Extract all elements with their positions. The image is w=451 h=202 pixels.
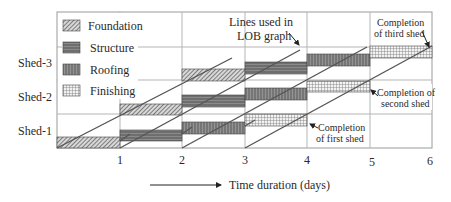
x-tick-2: 2: [179, 153, 185, 167]
legend-label-structure: Structure: [90, 41, 134, 55]
bar-shed2-roofing: [245, 88, 307, 100]
legend-swatch-roofing: [63, 64, 80, 75]
row-labels: Shed-3 Shed-2 Shed-1: [18, 56, 52, 138]
x-tick-6: 6: [427, 154, 433, 168]
row-label-shed1: Shed-1: [18, 124, 52, 138]
annotation-third-shed-2: of third shed: [374, 28, 425, 39]
annotation-lob-lines-1: Lines used in: [229, 15, 293, 29]
annotation-second-shed-1: Completion of: [377, 87, 436, 98]
row-label-shed3: Shed-3: [18, 56, 52, 70]
legend-swatch-foundation: [63, 20, 80, 31]
x-tick-3: 3: [242, 153, 248, 167]
x-axis-label: Time duration (days): [229, 178, 330, 192]
annotation-lob-lines-2: LOB graph: [237, 29, 291, 43]
bar-shed2-foundation: [120, 104, 182, 115]
x-tick-4: 4: [304, 153, 310, 167]
x-tick-5: 5: [369, 155, 375, 169]
annotation-second-shed-2: second shed: [381, 98, 430, 109]
legend-swatch-structure: [63, 42, 80, 53]
x-ticks: 1 2 3 4 5 6: [117, 153, 433, 169]
row-label-shed2: Shed-2: [18, 90, 52, 104]
legend-label-finishing: Finishing: [90, 84, 135, 98]
bar-shed2-finishing: [307, 81, 370, 92]
bar-shed3-finishing: [370, 46, 432, 58]
lob-diagram: Foundation Structure Roofing Finishing: [0, 0, 451, 202]
annotation-first-shed-1: Completion: [318, 122, 365, 133]
legend-swatch-finishing: [63, 85, 80, 96]
x-tick-1: 1: [117, 153, 123, 167]
legend-label-roofing: Roofing: [90, 63, 129, 77]
annotation-third-shed-1: Completion: [377, 17, 424, 28]
bar-shed3-roofing: [307, 54, 370, 66]
legend-label-foundation: Foundation: [88, 19, 143, 33]
annotation-first-shed-2: of first shed: [316, 133, 364, 144]
